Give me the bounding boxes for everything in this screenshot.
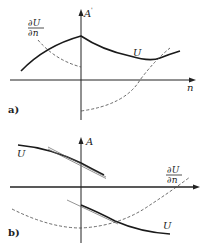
panel-b-U-right-label: U bbox=[163, 220, 172, 231]
panel-b-curve-U-right bbox=[81, 205, 170, 234]
panel-a-x-label: n bbox=[187, 82, 193, 93]
panel-b-tangent-left bbox=[48, 147, 106, 177]
panel-b-y-label: A bbox=[85, 136, 93, 147]
diagram-canvas: A ' n U ∂U ∂n a) A U U ∂U ∂n b) bbox=[0, 0, 211, 251]
panel-a-label: a) bbox=[8, 104, 19, 115]
panel-a-y-arrow-icon bbox=[79, 9, 84, 16]
panel-b: A U U ∂U ∂n b) bbox=[8, 136, 200, 243]
panel-a-U-label: U bbox=[133, 47, 142, 58]
panel-b-U-left-label: U bbox=[17, 148, 26, 159]
panel-b-x-arrow-icon bbox=[193, 185, 200, 190]
panel-b-dUdn-denominator: ∂n bbox=[167, 175, 178, 185]
panel-a-dUdn-numerator: ∂U bbox=[28, 18, 41, 28]
panel-a-dUdn-denominator: ∂n bbox=[28, 28, 39, 38]
panel-b-y-arrow-icon bbox=[79, 137, 84, 144]
panel-b-label: b) bbox=[8, 227, 20, 238]
panel-a: A ' n U ∂U ∂n a) bbox=[8, 6, 196, 120]
panel-b-tangent-left-double bbox=[48, 149, 106, 179]
panel-a-curve-U bbox=[21, 36, 180, 71]
panel-b-dUdn-numerator: ∂U bbox=[167, 165, 180, 175]
panel-b-tangent-right bbox=[67, 200, 118, 224]
panel-a-y-label: A bbox=[83, 8, 91, 19]
panel-b-curve-U-left bbox=[18, 145, 104, 175]
panel-a-y-label-prime: ' bbox=[91, 6, 93, 13]
